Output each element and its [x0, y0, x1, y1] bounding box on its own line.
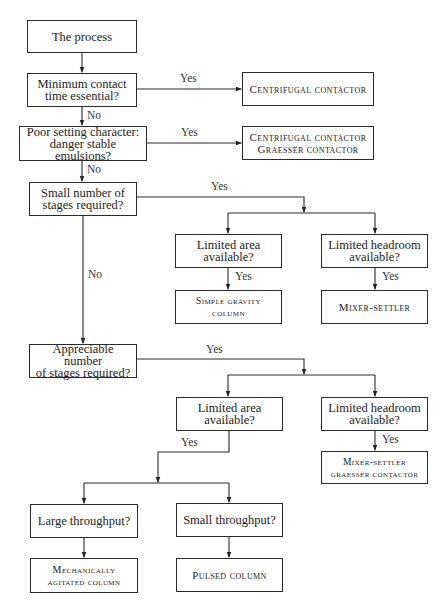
edge-label-yes: Yes	[180, 72, 197, 84]
node-app-limited-headroom-label: Limited headroom available?	[328, 402, 421, 426]
node-small-throughput-label: Small throughput?	[183, 514, 276, 526]
node-small-stages-question: Small number of stages required?	[29, 182, 137, 216]
node-simple-gravity-result: Simple gravity column	[175, 290, 282, 324]
node-app-limited-area-label: Limited area available?	[198, 402, 262, 426]
node-centrifugal-label: Centrifugal contactor	[250, 83, 367, 95]
node-app-limited-headroom-question: Limited headroom available?	[321, 397, 428, 431]
node-mixer-settler-label: Mixer-settler	[339, 301, 411, 313]
node-small-stages-label: Small number of stages required?	[41, 187, 125, 211]
edge-label-yes: Yes	[211, 180, 228, 192]
node-start-label: The process	[52, 31, 112, 43]
node-mixer-settler-graesser-label: Mixer-settler graesser contactor	[331, 456, 418, 480]
node-small-throughput-question: Small throughput?	[176, 503, 283, 537]
node-centrifugal-graesser-label: Centrifugal contactor Graesser contactor	[250, 131, 367, 155]
node-small-limited-headroom-label: Limited headroom available?	[328, 239, 421, 263]
edge-label-yes: Yes	[181, 436, 198, 448]
node-large-throughput-label: Large throughput?	[38, 515, 130, 527]
edge-label-no: No	[87, 163, 101, 175]
node-large-throughput-question: Large throughput?	[30, 504, 138, 538]
edge-label-yes: Yes	[181, 126, 198, 138]
node-poor-settling-label: Poor setting character: danger stable em…	[22, 126, 144, 162]
node-small-limited-headroom-question: Limited headroom available?	[321, 234, 428, 268]
node-small-limited-area-question: Limited area available?	[175, 234, 282, 268]
node-min-contact-question: Minimum contact time essential?	[27, 73, 137, 107]
node-mechanically-agitated-result: Mechanically agitated column	[30, 558, 138, 593]
node-simple-gravity-label: Simple gravity column	[196, 295, 261, 319]
node-mixer-settler-graesser-result: Mixer-settler graesser contactor	[321, 451, 428, 484]
edge-label-yes: Yes	[235, 270, 252, 282]
node-pulsed-column-label: Pulsed column	[192, 569, 267, 581]
node-pulsed-column-result: Pulsed column	[176, 558, 283, 592]
node-min-contact-label: Minimum contact time essential?	[37, 78, 126, 102]
edge-label-no: No	[87, 109, 101, 121]
edge-label-no: No	[88, 268, 102, 280]
node-appreciable-stages-label: Appreciable number of stages required?	[32, 343, 134, 379]
node-mechanically-agitated-label: Mechanically agitated column	[48, 564, 121, 588]
node-start: The process	[27, 20, 137, 53]
node-mixer-settler-result: Mixer-settler	[321, 290, 428, 324]
node-poor-settling-question: Poor setting character: danger stable em…	[19, 126, 147, 161]
edge-label-yes: Yes	[382, 433, 399, 445]
node-centrifugal-graesser-result: Centrifugal contactor Graesser contactor	[242, 126, 374, 160]
node-appreciable-stages-question: Appreciable number of stages required?	[29, 344, 137, 378]
node-centrifugal-contactor-result: Centrifugal contactor	[242, 72, 374, 106]
node-small-limited-area-label: Limited area available?	[197, 239, 261, 263]
edge-label-yes: Yes	[382, 270, 399, 282]
edge-label-yes: Yes	[206, 343, 223, 355]
node-app-limited-area-question: Limited area available?	[176, 397, 283, 431]
